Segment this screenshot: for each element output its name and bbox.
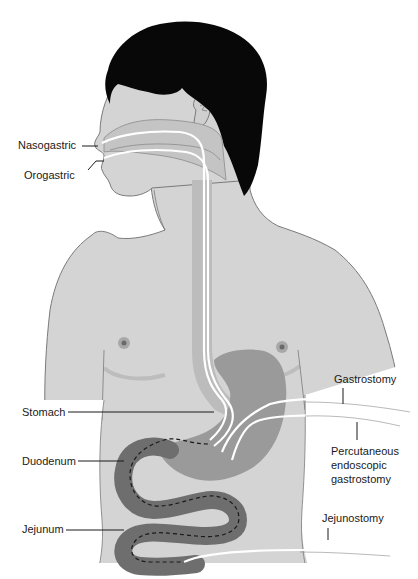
svg-text:Gastrostomy: Gastrostomy <box>334 373 397 385</box>
svg-text:Jejunum: Jejunum <box>22 523 64 535</box>
svg-text:Duodenum: Duodenum <box>22 455 76 467</box>
svg-text:Orogastric: Orogastric <box>24 169 75 181</box>
label-cutaway-left <box>0 400 104 579</box>
svg-text:Jejunostomy: Jejunostomy <box>322 512 384 524</box>
svg-text:Nasogastric: Nasogastric <box>18 139 77 151</box>
svg-text:Percutaneous: Percutaneous <box>331 445 399 457</box>
bottom-cutaway <box>0 563 418 579</box>
svg-text:gastrostomy: gastrostomy <box>331 473 391 485</box>
left-nipple-center <box>122 341 127 346</box>
feeding-tube-diagram: Nasogastric Orogastric Stomach Duodenum … <box>0 0 418 579</box>
label-nasogastric: Nasogastric <box>18 139 98 151</box>
svg-text:Stomach: Stomach <box>22 406 65 418</box>
right-nipple-center <box>280 345 285 350</box>
svg-text:endoscopic: endoscopic <box>331 459 387 471</box>
label-orogastric: Orogastric <box>24 161 104 181</box>
